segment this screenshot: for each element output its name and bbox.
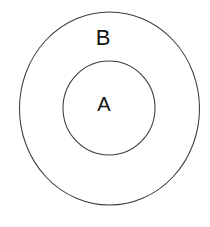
- euler-diagram: B A: [0, 0, 210, 227]
- inner-set-label: A: [0, 94, 209, 114]
- outer-set-label: B: [0, 27, 208, 49]
